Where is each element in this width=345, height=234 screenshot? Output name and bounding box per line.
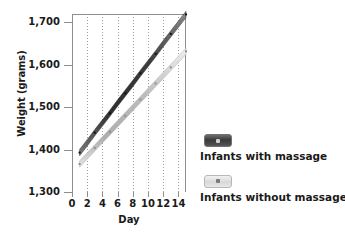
x-tick-mark-8	[133, 192, 134, 197]
legend-entry-with-massage[interactable]: Infants with massage	[200, 134, 342, 163]
legend-entry-without-massage[interactable]: Infants without massage	[200, 175, 342, 204]
y-tick-mark-1300	[64, 192, 72, 193]
x-tick-mark-10	[148, 192, 149, 197]
x-tick-mark-12	[163, 192, 164, 197]
x-tick-mark-14	[178, 192, 179, 197]
swatch-marker-icon	[216, 179, 220, 183]
x-tick-label-14: 14	[167, 199, 189, 209]
y-tick-label-1600: 1,600	[8, 60, 60, 70]
y-tick-mark-1600	[64, 65, 72, 66]
y-tick-label-1400: 1,400	[8, 145, 60, 155]
gridline-day-14	[178, 14, 179, 192]
gridline-day-4	[102, 14, 103, 192]
x-tick-mark-2	[87, 192, 88, 197]
dark-swatch-icon	[204, 134, 232, 147]
chart-legend: Infants with massage Infants without mas…	[200, 134, 342, 215]
x-tick-mark-0	[72, 192, 73, 197]
y-axis-title: Weight (grams)	[16, 24, 27, 164]
gridline-day-6	[118, 14, 119, 192]
y-tick-label-1300: 1,300	[8, 187, 60, 197]
light-swatch-icon	[204, 175, 232, 188]
gridline-day-2	[87, 14, 88, 192]
x-tick-mark-4	[102, 192, 103, 197]
gridline-day-8	[133, 14, 134, 192]
y-tick-label-1700: 1,700	[8, 17, 60, 27]
plot-top-border	[72, 14, 186, 15]
plot-area	[72, 14, 186, 192]
y-tick-mark-1400	[64, 150, 72, 151]
legend-label-with-massage: Infants with massage	[200, 150, 342, 163]
gridline-day-12	[163, 14, 164, 192]
legend-label-without-massage: Infants without massage	[200, 191, 342, 204]
swatch-marker-icon	[216, 139, 220, 143]
gridline-day-10	[148, 14, 149, 192]
line-chart-figure: Weight (grams) 1,3001,4001,5001,6001,700…	[0, 0, 345, 234]
y-tick-label-1500: 1,500	[8, 102, 60, 112]
y-tick-mark-1500	[64, 107, 72, 108]
x-tick-mark-6	[118, 192, 119, 197]
x-axis-title: Day	[72, 214, 186, 225]
y-tick-mark-1700	[64, 22, 72, 23]
